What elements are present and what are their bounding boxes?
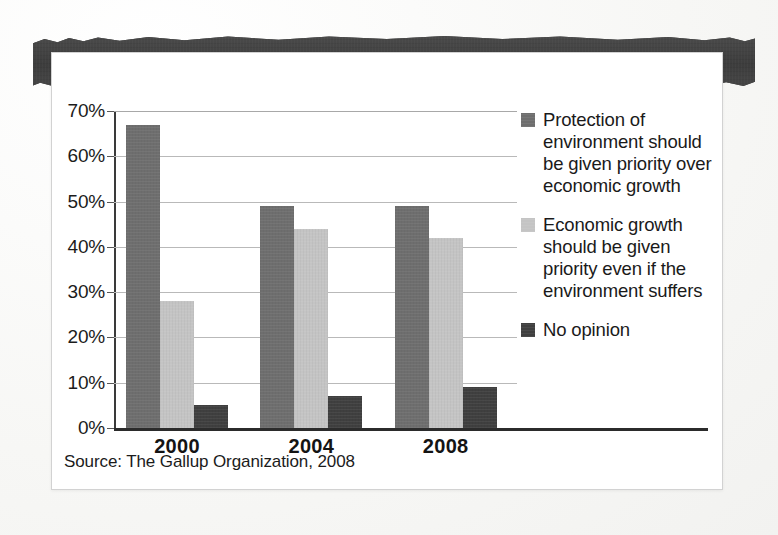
bar bbox=[328, 396, 362, 428]
bar bbox=[429, 238, 463, 428]
y-axis-tick-label: 60% bbox=[68, 145, 105, 167]
y-axis-tick-label: 20% bbox=[68, 326, 105, 348]
bar bbox=[194, 405, 228, 428]
legend-item[interactable]: Economic growth should be given priority… bbox=[521, 214, 717, 302]
x-axis-line bbox=[114, 428, 708, 431]
y-axis-tick-label: 0% bbox=[78, 417, 105, 439]
y-axis-tick-label: 10% bbox=[68, 372, 105, 394]
legend-item[interactable]: Protection of environment should be give… bbox=[521, 109, 717, 197]
legend-swatch-icon bbox=[521, 323, 535, 337]
legend-item-label: Economic growth should be given priority… bbox=[543, 214, 717, 302]
legend-item[interactable]: No opinion bbox=[521, 319, 717, 341]
bar-group bbox=[395, 111, 497, 428]
y-axis-tick-mark bbox=[107, 292, 114, 293]
legend-swatch-icon bbox=[521, 218, 535, 232]
y-axis-tick-mark bbox=[107, 337, 114, 338]
legend-item-label: No opinion bbox=[543, 319, 630, 341]
y-axis-tick-mark bbox=[107, 428, 114, 429]
y-axis-tick-label: 40% bbox=[68, 236, 105, 258]
y-axis-tick-mark bbox=[107, 247, 114, 248]
chart-card: 0%10%20%30%40%50%60%70% 200020042008 Pro… bbox=[51, 52, 723, 490]
bar bbox=[463, 387, 497, 428]
y-axis-tick-mark bbox=[107, 156, 114, 157]
bar bbox=[294, 229, 328, 428]
y-axis-tick-mark bbox=[107, 383, 114, 384]
legend-swatch-icon bbox=[521, 113, 535, 127]
bar bbox=[160, 301, 194, 428]
chart-legend: Protection of environment should be give… bbox=[521, 109, 717, 358]
bar bbox=[395, 206, 429, 428]
source-note: Source: The Gallup Organization, 2008 bbox=[64, 452, 355, 472]
y-axis-tick-mark bbox=[107, 111, 114, 112]
y-axis-labels: 0%10%20%30%40%50%60%70% bbox=[52, 111, 105, 429]
chart-plot-region: 0%10%20%30%40%50%60%70% 200020042008 Pro… bbox=[52, 53, 724, 491]
bar-group bbox=[260, 111, 362, 428]
bar bbox=[126, 125, 160, 428]
bar bbox=[260, 206, 294, 428]
y-axis-tick-label: 70% bbox=[68, 100, 105, 122]
legend-item-label: Protection of environment should be give… bbox=[543, 109, 717, 197]
y-axis-tick-label: 30% bbox=[68, 281, 105, 303]
plot-area bbox=[114, 111, 517, 428]
bar-group bbox=[126, 111, 228, 428]
y-axis-tick-label: 50% bbox=[68, 191, 105, 213]
y-axis-tick-mark bbox=[107, 202, 114, 203]
x-axis-tick-label: 2008 bbox=[389, 435, 503, 458]
